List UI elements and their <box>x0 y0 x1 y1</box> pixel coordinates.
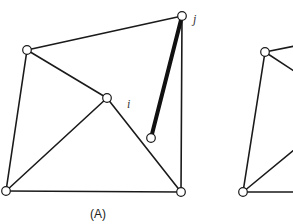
node-label-i: i <box>127 97 130 111</box>
edge-tl2-bl2 <box>243 52 265 192</box>
edge-i-br <box>107 98 181 192</box>
node-tl <box>23 46 32 55</box>
node-i <box>103 94 112 103</box>
edge-tl2-offscreen_diag <box>265 52 293 75</box>
nodes-layer <box>2 12 270 197</box>
node-free <box>147 134 156 143</box>
edge-bl-br <box>6 191 181 192</box>
edge-j-tl <box>27 16 182 50</box>
graph-diagram: ji(A) <box>0 0 293 224</box>
edge-bl2-offscreen_up <box>243 145 293 192</box>
edge-tl-i <box>27 50 107 98</box>
bold-edge-j-free <box>151 16 182 138</box>
edge-tl-bl <box>6 50 27 191</box>
node-bl2 <box>239 188 248 197</box>
panel-caption: (A) <box>90 207 106 221</box>
edge-j-br <box>181 16 182 192</box>
node-j <box>178 12 187 21</box>
node-br <box>177 188 186 197</box>
node-label-j: j <box>191 12 197 26</box>
edge-i-bl <box>6 98 107 191</box>
node-bl <box>2 187 11 196</box>
node-tl2 <box>261 48 270 57</box>
edges-layer <box>6 16 293 192</box>
